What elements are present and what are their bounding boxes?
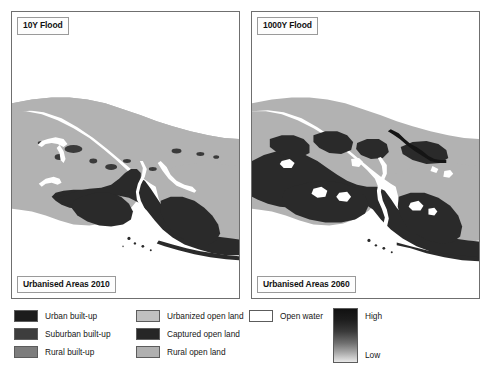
legend-item-captured-open-land: Captured open land xyxy=(136,325,246,343)
legend-column-water: Open water xyxy=(249,307,339,325)
legend-swatch-urbanized-open-land xyxy=(136,310,160,322)
legend-column-built-up: Urban built-up Suburban built-up Rural b… xyxy=(14,307,134,361)
legend-item-urbanized-open-land: Urbanized open land xyxy=(136,307,246,325)
legend-label-urbanized-open-land: Urbanized open land xyxy=(167,312,244,320)
panel-tag-urbanised-areas: Urbanised Areas 2010 xyxy=(17,276,116,294)
legend-label-open-water: Open water xyxy=(280,312,323,320)
panel-tag-urbanised-areas: Urbanised Areas 2060 xyxy=(257,276,356,294)
legend-item-rural-built-up: Rural built-up xyxy=(14,343,134,361)
map-panel-1000y-flood-2060[interactable]: 1000Y Flood Urbanised Areas 2060 xyxy=(251,11,480,299)
legend-item-urban-built-up: Urban built-up xyxy=(14,307,134,325)
flood-depth-ramp: High Low xyxy=(333,307,443,365)
map-image-2010 xyxy=(12,12,239,298)
map-image-2060 xyxy=(252,12,479,298)
legend-swatch-suburban-built-up xyxy=(14,328,38,340)
flood-depth-ramp-label-low: Low xyxy=(365,351,380,359)
figure-root: 10Y Flood Urbanised Areas 2010 xyxy=(0,0,492,373)
legend-label-suburban-built-up: Suburban built-up xyxy=(45,330,111,338)
panel-tag-flood-return-period: 1000Y Flood xyxy=(257,17,318,35)
legend-swatch-urban-built-up xyxy=(14,310,38,322)
legend-swatch-captured-open-land xyxy=(136,328,160,340)
legend-label-captured-open-land: Captured open land xyxy=(167,330,240,338)
legend-item-open-water: Open water xyxy=(249,307,339,325)
legend-label-rural-open-land: Rural open land xyxy=(167,348,226,356)
map-panel-10y-flood-2010[interactable]: 10Y Flood Urbanised Areas 2010 xyxy=(11,11,240,299)
legend-label-urban-built-up: Urban built-up xyxy=(45,312,97,320)
legend-item-suburban-built-up: Suburban built-up xyxy=(14,325,134,343)
legend-swatch-rural-open-land xyxy=(136,346,160,358)
legend-item-rural-open-land: Rural open land xyxy=(136,343,246,361)
flood-depth-ramp-label-high: High xyxy=(365,312,382,320)
legend-swatch-open-water xyxy=(249,310,273,322)
legend-swatch-rural-built-up xyxy=(14,346,38,358)
flood-depth-ramp-bar xyxy=(333,308,358,363)
legend-column-open-land: Urbanized open land Captured open land R… xyxy=(136,307,246,361)
panel-tag-flood-return-period: 10Y Flood xyxy=(17,17,69,35)
legend-label-rural-built-up: Rural built-up xyxy=(45,348,94,356)
legend: Urban built-up Suburban built-up Rural b… xyxy=(11,307,481,367)
